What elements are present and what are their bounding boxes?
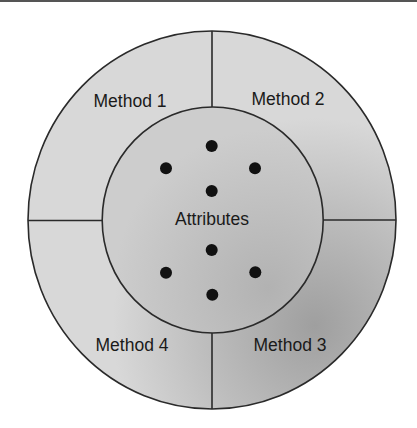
attribute-dot (206, 244, 218, 256)
method-2-label: Method 2 (252, 89, 325, 109)
attribute-dot (206, 185, 218, 197)
method-1-label: Method 1 (94, 91, 167, 111)
attribute-dot (160, 162, 172, 174)
attribute-dot (249, 266, 261, 278)
attribute-dot (206, 289, 218, 301)
method-4-label: Method 4 (96, 335, 169, 355)
attributes-label: Attributes (175, 209, 249, 229)
method-3-label: Method 3 (254, 335, 327, 355)
attribute-dot (206, 140, 218, 152)
attribute-dot (160, 267, 172, 279)
object-encapsulation-diagram: Method 1 Method 2 Method 3 Method 4 Attr… (0, 0, 417, 428)
attribute-dot (249, 162, 261, 174)
